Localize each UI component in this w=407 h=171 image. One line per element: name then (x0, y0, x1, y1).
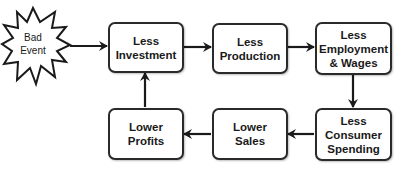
node-lower-sales: LowerSales (212, 108, 288, 160)
node-label-line: Spending (325, 142, 382, 156)
node-label-line: Lower (128, 120, 164, 134)
node-label-line: Less (319, 28, 388, 42)
bad-event-line-1: Bad (10, 31, 56, 44)
node-label-line: Investment (116, 48, 177, 62)
node-label-line: & Wages (319, 56, 388, 70)
node-label-line: Employment (319, 42, 388, 56)
node-label-line: Lower (233, 120, 267, 134)
node-lower-profits: LowerProfits (108, 108, 184, 160)
bad-event-line-2: Event (10, 44, 56, 57)
node-less-employment-wages: LessEmployment& Wages (315, 22, 392, 75)
node-less-investment: LessInvestment (108, 22, 184, 73)
node-label-line: Sales (233, 134, 267, 148)
node-less-consumer-spending: LessConsumerSpending (315, 108, 392, 161)
node-less-production: LessProduction (212, 23, 288, 74)
node-label-line: Less (220, 35, 281, 49)
node-label-line: Profits (128, 134, 164, 148)
bad-event-label: Bad Event (10, 31, 56, 57)
node-label-line: Consumer (325, 128, 382, 142)
node-label-line: Production (220, 49, 281, 63)
node-label-line: Less (116, 34, 177, 48)
node-label-line: Less (325, 114, 382, 128)
